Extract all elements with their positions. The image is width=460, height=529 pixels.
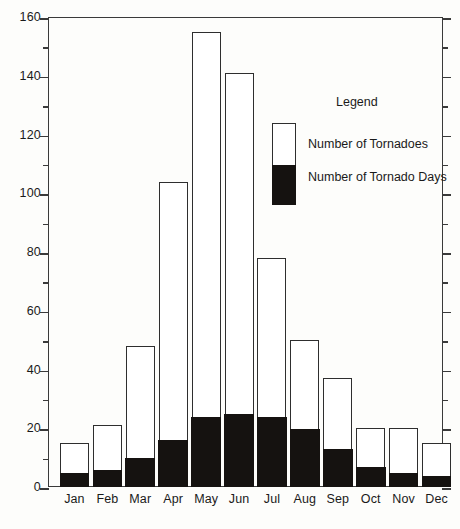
y-axis-tick-label: 100 bbox=[20, 186, 41, 200]
y-axis-major-tick bbox=[40, 488, 49, 490]
bar-jan bbox=[60, 443, 89, 487]
bar-dark-segment-jul bbox=[257, 417, 287, 488]
tornado-bar-chart: 020406080100120140160 JanFebMarAprMayJun… bbox=[0, 0, 460, 529]
bar-dark-segment-feb bbox=[93, 470, 123, 488]
y-axis-tick-label: 80 bbox=[27, 245, 41, 259]
bar-dark-segment-jun bbox=[224, 414, 254, 487]
x-axis-tick-label-jul: Jul bbox=[256, 492, 289, 506]
x-axis-tick-label-aug: Aug bbox=[288, 492, 321, 506]
y-axis-major-tick bbox=[442, 253, 451, 255]
bar-mar bbox=[126, 346, 155, 487]
x-axis-tick-label-oct: Oct bbox=[354, 492, 387, 506]
x-axis-tick-label-jun: Jun bbox=[223, 492, 256, 506]
bar-sep bbox=[323, 378, 352, 487]
y-axis-tick-label: 0 bbox=[34, 480, 41, 494]
x-axis-tick-labels: JanFebMarAprMayJunJulAugSepOctNovDec bbox=[48, 492, 443, 516]
legend: Legend Number of Tornadoes Number of Tor… bbox=[265, 95, 450, 215]
bar-nov bbox=[389, 428, 418, 487]
x-axis-tick-label-sep: Sep bbox=[321, 492, 354, 506]
x-axis-tick-label-nov: Nov bbox=[387, 492, 420, 506]
y-axis-major-tick bbox=[442, 371, 451, 373]
x-axis-tick-label-jan: Jan bbox=[58, 492, 91, 506]
x-axis-tick-label-feb: Feb bbox=[91, 492, 124, 506]
bar-dark-segment-mar bbox=[125, 458, 155, 487]
bar-dark-segment-nov bbox=[389, 473, 419, 488]
y-axis-tick-label: 120 bbox=[20, 128, 41, 142]
y-axis-tick-label: 20 bbox=[27, 421, 41, 435]
bar-dark-segment-sep bbox=[323, 449, 353, 487]
bar-jul bbox=[257, 258, 286, 487]
legend-title: Legend bbox=[336, 95, 378, 109]
bar-dark-segment-may bbox=[191, 417, 221, 488]
bar-dark-segment-apr bbox=[158, 440, 188, 487]
y-axis-major-tick bbox=[442, 77, 451, 79]
y-axis-major-tick bbox=[442, 429, 451, 431]
y-axis-tick-label: 40 bbox=[27, 363, 41, 377]
x-axis-tick-label-mar: Mar bbox=[124, 492, 157, 506]
bar-may bbox=[192, 32, 221, 487]
bar-dark-segment-oct bbox=[356, 467, 386, 488]
legend-swatch-tornado-days bbox=[272, 165, 297, 205]
y-axis-tick-label: 160 bbox=[20, 10, 41, 24]
bar-dark-segment-aug bbox=[290, 429, 320, 488]
bar-oct bbox=[356, 428, 385, 487]
x-axis-tick-label-may: May bbox=[190, 492, 223, 506]
legend-swatch-tornadoes bbox=[272, 123, 296, 205]
bar-feb bbox=[93, 425, 122, 487]
y-axis-major-tick bbox=[442, 312, 451, 314]
y-axis-tick-labels: 020406080100120140160 bbox=[0, 17, 41, 487]
legend-label-tornadoes: Number of Tornadoes bbox=[308, 137, 428, 151]
bar-apr bbox=[159, 182, 188, 488]
y-axis-tick-label: 140 bbox=[20, 69, 41, 83]
y-axis-major-tick bbox=[442, 488, 451, 490]
y-axis-tick-label: 60 bbox=[27, 304, 41, 318]
bars-layer bbox=[48, 17, 443, 487]
y-axis-major-tick bbox=[442, 18, 451, 20]
bar-dark-segment-dec bbox=[422, 476, 452, 488]
bar-aug bbox=[290, 340, 319, 487]
x-axis-tick-label-dec: Dec bbox=[420, 492, 453, 506]
bar-dec bbox=[422, 443, 451, 487]
bar-dark-segment-jan bbox=[60, 473, 90, 488]
legend-label-tornado-days: Number of Tornado Days bbox=[308, 170, 447, 184]
x-axis-tick-label-apr: Apr bbox=[157, 492, 190, 506]
bar-jun bbox=[225, 73, 254, 487]
